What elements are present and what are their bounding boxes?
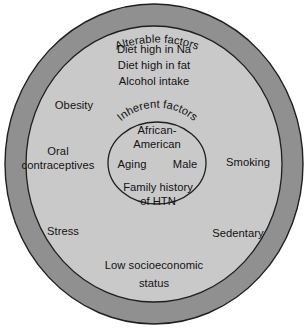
label-low-socioeconomic-status-line2: status [0, 276, 308, 291]
label-oral-contraceptives-line2: contraceptives [6, 158, 110, 173]
label-oral-contraceptives-line1: Oral [10, 144, 106, 159]
label-diet-high-in-fat: Diet high in fat [0, 58, 308, 73]
label-aging: Aging [108, 157, 156, 172]
label-low-socioeconomic-status-line1: Low socioeconomic [0, 258, 308, 273]
label-alcohol-intake: Alcohol intake [0, 74, 308, 89]
label-sedentary: Sedentary [195, 226, 281, 241]
label-stress: Stress [28, 224, 98, 239]
label-african-american-line1: African- [109, 123, 205, 138]
label-diet-high-in-na: Diet high in Na [0, 42, 308, 57]
diagram-canvas: Alterable factors Inherent factors Diet … [0, 0, 308, 332]
label-smoking: Smoking [208, 155, 288, 170]
label-family-history-line2: of HTN [103, 194, 213, 209]
label-family-history-line1: Family history [103, 180, 213, 195]
label-african-american-line2: American [109, 137, 205, 152]
label-male: Male [163, 157, 207, 172]
label-obesity: Obesity [34, 98, 114, 113]
